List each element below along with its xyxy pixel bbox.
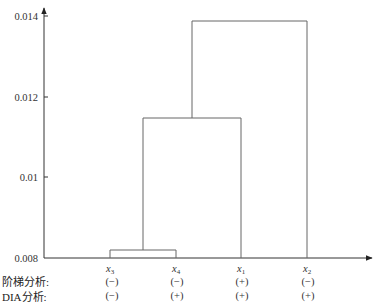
row-label-ladder-analysis: 阶梯分析: <box>2 273 49 289</box>
dendrogram-chart: 0.014 0.012 0.01 0.008 x3 x4 x1 x2 (−) (… <box>0 0 380 307</box>
y-ticks: 0.014 0.012 0.01 0.008 <box>14 11 48 264</box>
sign-cell: (+) <box>302 290 315 302</box>
leaf-label-x3: x3 <box>105 263 115 276</box>
row-label-dia-analysis: DIA分析: <box>2 288 47 304</box>
dia-analysis-signs: (−) (+) (+) (+) <box>106 290 315 302</box>
sign-cell: (+) <box>236 276 249 288</box>
y-tick-label: 0.01 <box>20 172 38 183</box>
sign-cell: (+) <box>171 290 184 302</box>
sign-cell: (+) <box>236 290 249 302</box>
sign-cell: (−) <box>106 290 119 302</box>
ladder-analysis-signs: (−) (−) (+) (−) <box>106 276 315 288</box>
leaf-label-x2: x2 <box>302 263 312 276</box>
y-tick-label: 0.008 <box>14 253 38 264</box>
leaf-label-x1: x1 <box>236 263 246 276</box>
y-tick-label: 0.012 <box>14 92 38 103</box>
dendrogram-branches <box>110 21 307 258</box>
y-tick-label: 0.014 <box>14 11 38 22</box>
leaf-labels: x3 x4 x1 x2 <box>105 263 312 276</box>
merge-x34-x1 <box>143 118 241 258</box>
sign-cell: (−) <box>302 276 315 288</box>
merge-x3-x4 <box>110 250 176 258</box>
leaf-label-x4: x4 <box>171 263 181 276</box>
sign-cell: (−) <box>106 276 119 288</box>
merge-root-x2 <box>192 21 307 258</box>
sign-cell: (−) <box>171 276 184 288</box>
